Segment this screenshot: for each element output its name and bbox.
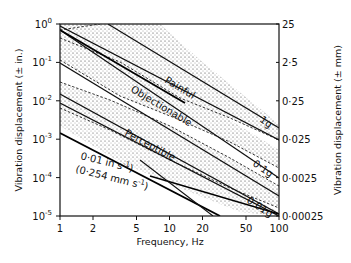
x-tick-2: 2 bbox=[90, 223, 96, 234]
y-left-tick-labels: 100 10-1 10-2 10-3 10-4 10-5 bbox=[32, 17, 52, 222]
y-right-tick-labels: 25 2·5 0·25 0·025 0·0025 0·00025 bbox=[282, 19, 323, 222]
y-tick-1e-1: 10-1 bbox=[32, 55, 52, 68]
y-tick-1e0: 100 bbox=[35, 17, 52, 30]
plot-area bbox=[60, 24, 279, 216]
y-tick-1e-3: 10-3 bbox=[32, 132, 52, 145]
y-tick-1e-4: 10-4 bbox=[32, 171, 52, 184]
y-right-tick-0-00025: 0·00025 bbox=[282, 211, 323, 222]
y-right-tick-0-25: 0·25 bbox=[282, 96, 304, 107]
y-tick-1e-2: 10-2 bbox=[32, 94, 52, 107]
x-axis-title: Frequency, Hz bbox=[136, 236, 203, 247]
y-right-tick-0-025: 0·025 bbox=[282, 134, 311, 145]
x-tick-labels: 1 2 5 10 20 50 100 bbox=[57, 223, 289, 234]
x-tick-1: 1 bbox=[57, 223, 63, 234]
x-tick-5: 5 bbox=[133, 223, 139, 234]
x-tick-10: 10 bbox=[163, 223, 176, 234]
y-right-tick-0-0025: 0·0025 bbox=[282, 173, 317, 184]
vibration-chart: 1 2 5 10 20 50 100 Frequency, Hz 100 10-… bbox=[0, 0, 351, 263]
x-tick-50: 50 bbox=[240, 223, 253, 234]
x-ticks bbox=[60, 216, 279, 220]
y-right-axis-title: Vibration displacement (± mm) bbox=[332, 45, 343, 195]
x-tick-20: 20 bbox=[196, 223, 209, 234]
y-right-tick-2-5: 2·5 bbox=[282, 57, 298, 68]
y-tick-1e-5: 10-5 bbox=[32, 209, 52, 222]
x-tick-100: 100 bbox=[269, 223, 288, 234]
y-left-axis-title: Vibration displacement (± in.) bbox=[13, 48, 24, 191]
y-right-tick-25: 25 bbox=[282, 19, 295, 30]
